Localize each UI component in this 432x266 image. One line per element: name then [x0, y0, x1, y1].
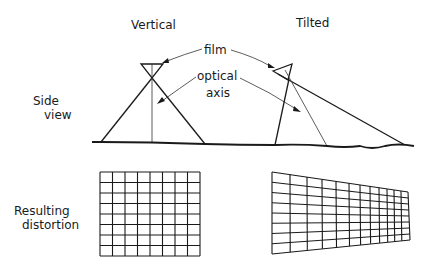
tilted-camera	[273, 64, 405, 146]
distortion-label-line1: Resulting	[14, 204, 70, 218]
film-callout-label: film	[204, 43, 227, 57]
distortion-label-line2: distortion	[22, 218, 79, 232]
vertical-column-title: Vertical	[131, 18, 176, 32]
optical-axis-callout-line1: optical	[197, 69, 237, 83]
vertical-result-grid	[100, 172, 200, 256]
side-view-label-line2: view	[44, 108, 72, 122]
vertical-camera	[101, 64, 205, 144]
tilted-optical-axis	[285, 70, 327, 146]
tilted-result-grid	[272, 172, 410, 254]
side-view-label-line1: Side	[33, 94, 59, 108]
ground-line	[92, 142, 414, 148]
camera-tilt-diagram: Vertical Tilted Side view Resulting dist…	[0, 0, 432, 266]
tilted-column-title: Tilted	[295, 16, 329, 30]
optical-axis-callout-line2: axis	[206, 86, 230, 100]
